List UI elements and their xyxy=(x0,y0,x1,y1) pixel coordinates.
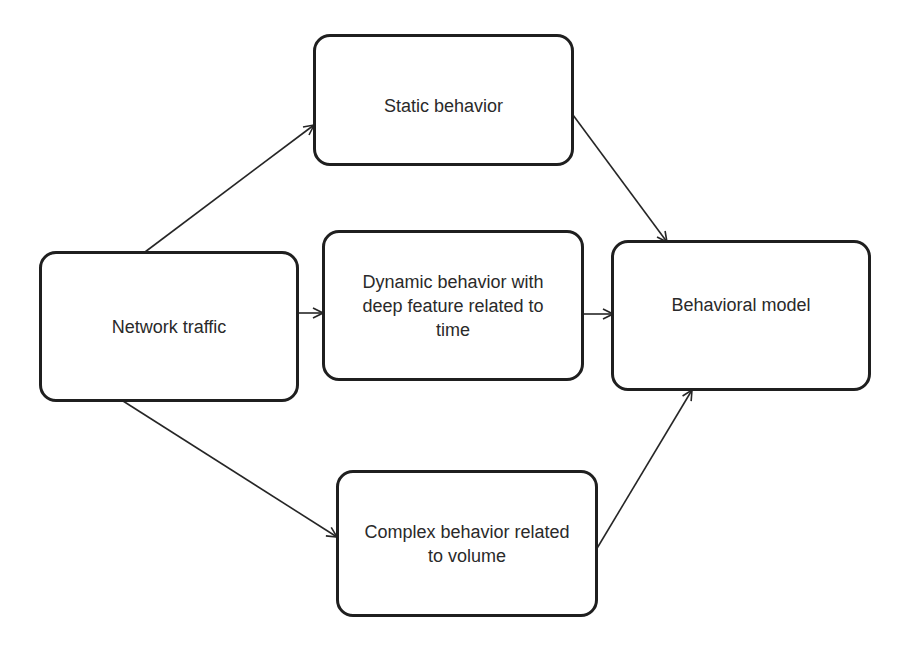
node-label: Complex behavior related to volume xyxy=(364,520,569,568)
node-network-traffic: Network traffic xyxy=(39,251,299,402)
edge-network-to-static xyxy=(145,125,314,252)
node-label: Dynamic behavior with deep feature relat… xyxy=(362,270,543,342)
node-complex-behavior: Complex behavior related to volume xyxy=(336,470,598,617)
edge-static-to-model xyxy=(573,115,667,242)
node-label: Behavioral model xyxy=(671,293,810,317)
node-label: Network traffic xyxy=(112,315,227,339)
node-static-behavior: Static behavior xyxy=(313,34,574,166)
edge-complex-to-model xyxy=(596,390,692,550)
node-label: Static behavior xyxy=(384,94,503,118)
node-dynamic-behavior: Dynamic behavior with deep feature relat… xyxy=(322,230,584,381)
node-behavioral-model: Behavioral model xyxy=(611,240,871,391)
edge-network-to-complex xyxy=(123,401,337,537)
diagram-canvas: Network traffic Static behavior Dynamic … xyxy=(0,0,907,646)
